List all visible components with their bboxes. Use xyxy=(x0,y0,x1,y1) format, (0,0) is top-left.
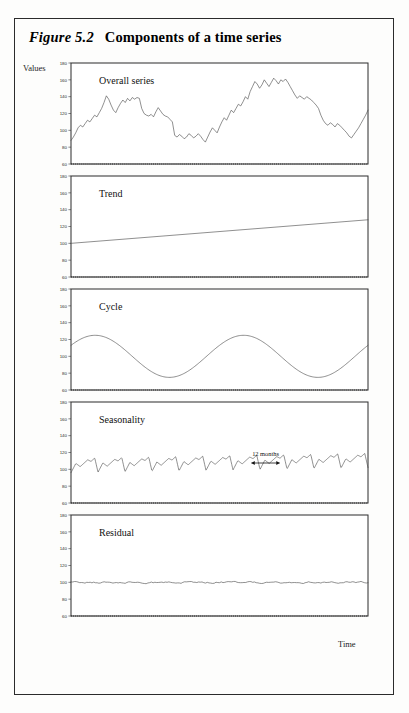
y-tick-label: 80 xyxy=(62,597,67,602)
y-tick-label: 60 xyxy=(62,275,67,280)
y-tick-label: 120 xyxy=(60,224,68,229)
panel-cycle: 1801601401201008060Cycle xyxy=(60,287,368,393)
y-tick-label: 80 xyxy=(62,258,67,263)
y-tick-label: 160 xyxy=(60,530,68,535)
panel-title: Overall series xyxy=(99,75,154,86)
y-tick-label: 80 xyxy=(62,484,67,489)
y-tick-label: 140 xyxy=(60,94,68,99)
y-tick-label: 160 xyxy=(60,191,68,196)
y-tick-label: 140 xyxy=(60,207,68,212)
y-tick-label: 180 xyxy=(60,400,68,405)
figure-card: Figure 5.2Components of a time series Va… xyxy=(14,18,394,695)
y-tick-label: 180 xyxy=(60,287,68,292)
panel-title: Cycle xyxy=(99,301,123,312)
y-tick-label: 140 xyxy=(60,546,68,551)
y-tick-label: 140 xyxy=(60,320,68,325)
y-tick-label: 140 xyxy=(60,433,68,438)
y-tick-label: 120 xyxy=(60,337,68,342)
y-tick-label: 80 xyxy=(62,371,67,376)
panel-overall-series: 1801601401201008060Overall series xyxy=(60,61,368,167)
y-tick-label: 60 xyxy=(62,501,67,506)
panel-title: Seasonality xyxy=(99,414,145,425)
y-tick-label: 180 xyxy=(60,61,68,66)
y-tick-label: 100 xyxy=(60,467,68,472)
panel-trend: 1801601401201008060Trend xyxy=(60,174,368,280)
y-tick-label: 60 xyxy=(62,162,67,167)
time-series-panels: 1801601401201008060Overall series1801601… xyxy=(15,19,395,696)
panel-title: Trend xyxy=(99,188,123,199)
panel-residual: 1801601401201008060Residual xyxy=(60,513,368,619)
y-tick-label: 180 xyxy=(60,174,68,179)
y-tick-label: 120 xyxy=(60,111,68,116)
y-tick-label: 120 xyxy=(60,563,68,568)
y-tick-label: 160 xyxy=(60,78,68,83)
y-tick-label: 60 xyxy=(62,614,67,619)
y-tick-label: 80 xyxy=(62,145,67,150)
y-tick-label: 100 xyxy=(60,580,68,585)
y-tick-label: 180 xyxy=(60,513,68,518)
y-tick-label: 120 xyxy=(60,450,68,455)
y-tick-label: 60 xyxy=(62,388,67,393)
panel-seasonality: 1801601401201008060Seasonality12 months xyxy=(60,400,368,506)
y-tick-label: 100 xyxy=(60,354,68,359)
y-tick-label: 160 xyxy=(60,304,68,309)
panel-title: Residual xyxy=(99,527,134,538)
seasonality-span-label: 12 months xyxy=(252,450,279,457)
y-tick-label: 100 xyxy=(60,128,68,133)
y-tick-label: 100 xyxy=(60,241,68,246)
y-tick-label: 160 xyxy=(60,417,68,422)
